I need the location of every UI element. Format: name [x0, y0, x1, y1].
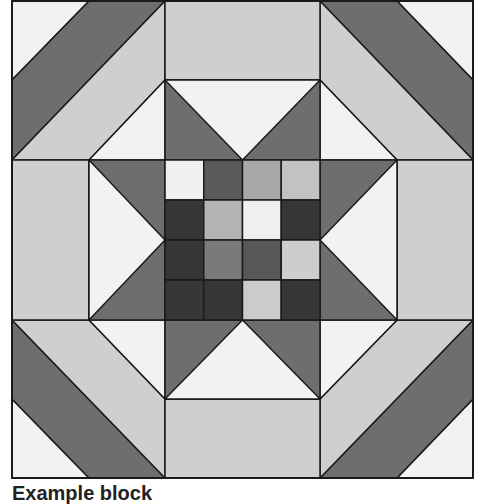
- grid-cell: [281, 280, 320, 320]
- side-top-rect: [165, 1, 320, 80]
- grid-cell: [165, 280, 204, 320]
- grid-cell: [204, 200, 243, 240]
- star-point-left: [89, 160, 165, 320]
- grid-cell: [243, 200, 282, 240]
- side-bottom-rect: [165, 399, 320, 478]
- grid-cell: [281, 240, 320, 280]
- star-point-bottom: [165, 320, 320, 399]
- grid-cell: [243, 160, 282, 200]
- grid-cell: [204, 240, 243, 280]
- star-point-top: [165, 80, 320, 160]
- caption-label: Example block: [12, 483, 152, 503]
- grid-cell: [165, 200, 204, 240]
- side-left-rect: [12, 160, 89, 320]
- side-right-rect: [397, 160, 473, 320]
- grid-cell: [204, 280, 243, 320]
- quilt-block-diagram: [0, 0, 478, 480]
- grid-cell: [204, 160, 243, 200]
- grid-cell: [165, 160, 204, 200]
- center-checker-grid: [165, 160, 320, 320]
- star-point-right: [320, 160, 397, 320]
- grid-cell: [281, 200, 320, 240]
- grid-cell: [243, 280, 282, 320]
- grid-cell: [281, 160, 320, 200]
- grid-cell: [243, 240, 282, 280]
- grid-cell: [165, 240, 204, 280]
